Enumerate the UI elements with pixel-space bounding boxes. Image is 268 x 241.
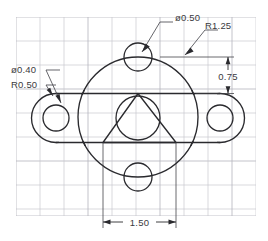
leader-side-hole-diameter bbox=[46, 70, 61, 103]
background-grid bbox=[16, 17, 256, 216]
label-side-hole-diameter: ø0.40 bbox=[11, 64, 36, 75]
right-lobe-arc bbox=[196, 94, 245, 143]
leader-upper-hole-diameter bbox=[142, 22, 173, 52]
inner-triangle bbox=[103, 94, 176, 143]
right-side-hole bbox=[207, 105, 233, 131]
label-upper-hole-diameter: ø0.50 bbox=[175, 12, 200, 23]
center-hole bbox=[116, 96, 160, 140]
drawing-sheet: ø0.50 R1.25 ø0.40 R0.50 bbox=[0, 0, 268, 241]
label-body-radius: R1.25 bbox=[205, 20, 231, 31]
label-lobe-radius: R0.50 bbox=[11, 79, 37, 90]
leader-body-radius bbox=[185, 30, 218, 55]
label-horizontal-dimension: 1.50 bbox=[130, 217, 149, 228]
left-side-hole bbox=[43, 105, 69, 131]
engineering-drawing-canvas: ø0.50 R1.25 ø0.40 R0.50 bbox=[0, 0, 268, 241]
label-vertical-dimension: 0.75 bbox=[218, 71, 237, 82]
left-lobe-arc bbox=[32, 94, 81, 143]
